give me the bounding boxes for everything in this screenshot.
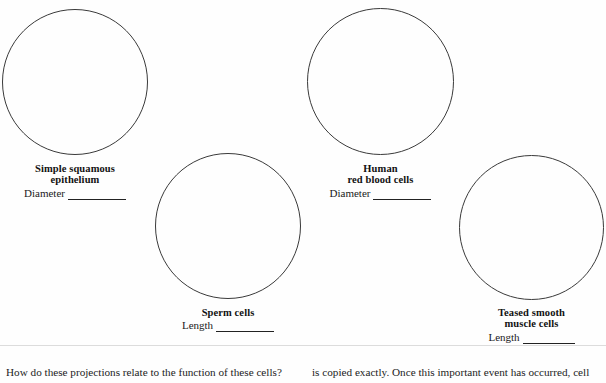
cell-title-line-2: muscle cells: [459, 318, 604, 329]
bottom-left-column-text: How do these projections relate to the f…: [6, 366, 282, 379]
measure-label-length: Length: [182, 319, 213, 331]
measure-row-human-red-blood-cells: Diameter: [307, 188, 454, 200]
cell-drawing-circle-teased-smooth-muscle-cells: [459, 155, 604, 300]
page-fold-rule: [0, 345, 606, 346]
cell-label-human-red-blood-cells: Human red blood cells Diameter: [307, 163, 454, 200]
cell-title-teased-smooth-muscle-cells: Teased smooth muscle cells: [459, 307, 604, 330]
measure-row-sperm-cells: Length: [155, 320, 301, 332]
cell-title-line-1: Sperm cells: [155, 307, 301, 318]
measure-blank-field-diameter[interactable]: [68, 190, 126, 200]
cell-label-sperm-cells: Sperm cells Length: [155, 307, 301, 332]
cell-title-line-2: red blood cells: [307, 174, 454, 185]
measure-blank-field-length[interactable]: [216, 322, 274, 332]
cell-title-line-2: epithelium: [2, 174, 148, 185]
bottom-right-column-text: is copied exactly. Once this important e…: [312, 366, 589, 379]
cell-label-simple-squamous-epithelium: Simple squamous epithelium Diameter: [2, 163, 148, 200]
cell-title-line-1: Human: [307, 163, 454, 174]
cell-title-sperm-cells: Sperm cells: [155, 307, 301, 318]
cell-title-human-red-blood-cells: Human red blood cells: [307, 163, 454, 186]
cell-drawing-circle-human-red-blood-cells: [307, 8, 454, 155]
cell-drawing-circle-simple-squamous-epithelium: [2, 9, 148, 155]
cell-title-line-1: Teased smooth: [459, 307, 604, 318]
cell-title-line-1: Simple squamous: [2, 163, 148, 174]
measure-blank-field-diameter[interactable]: [373, 190, 431, 200]
measure-label-diameter: Diameter: [24, 187, 65, 199]
page-bottom-text-band: How do these projections relate to the f…: [0, 341, 606, 383]
measure-label-diameter: Diameter: [330, 187, 371, 199]
cell-title-simple-squamous-epithelium: Simple squamous epithelium: [2, 163, 148, 186]
cell-drawing-circle-sperm-cells: [155, 153, 301, 299]
worksheet-page: Simple squamous epithelium Diameter Huma…: [0, 0, 606, 383]
measure-row-simple-squamous-epithelium: Diameter: [2, 188, 148, 200]
cell-label-teased-smooth-muscle-cells: Teased smooth muscle cells Length: [459, 307, 604, 344]
